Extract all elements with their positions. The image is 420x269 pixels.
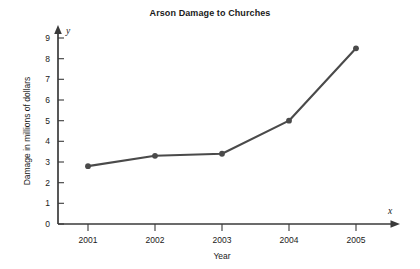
data-point-markers <box>85 45 359 169</box>
y-tick-label-3: 3 <box>45 157 50 167</box>
y-axis-title: Damage in millions of dollars <box>22 77 32 186</box>
y-axis: y <box>54 25 71 224</box>
data-point-2005 <box>353 45 359 51</box>
y-tick-label-0: 0 <box>45 219 50 229</box>
data-point-2004 <box>286 118 292 124</box>
y-axis-arrowhead <box>54 25 62 34</box>
x-tick-label-2004: 2004 <box>280 235 299 245</box>
y-tick-label-9: 9 <box>45 33 50 43</box>
x-tick-label-2001: 2001 <box>79 235 98 245</box>
y-axis-tick-labels: 0 1 2 3 4 5 6 7 8 9 <box>45 33 50 229</box>
x-axis: x <box>58 206 400 228</box>
y-tick-label-5: 5 <box>45 116 50 126</box>
y-tick-label-6: 6 <box>45 95 50 105</box>
x-tick-label-2005: 2005 <box>347 235 366 245</box>
data-point-2002 <box>152 153 158 159</box>
x-axis-arrowhead <box>391 220 401 228</box>
y-axis-symbol-label: y <box>65 26 71 36</box>
y-axis-ticks <box>58 38 64 224</box>
x-axis-symbol-label: x <box>387 206 393 216</box>
data-point-2003 <box>219 151 225 157</box>
data-series-line <box>88 48 356 166</box>
data-point-2001 <box>85 163 91 169</box>
x-axis-title: Year <box>213 251 230 261</box>
y-tick-label-7: 7 <box>45 74 50 84</box>
y-tick-label-1: 1 <box>45 198 50 208</box>
y-tick-label-8: 8 <box>45 54 50 64</box>
x-tick-label-2002: 2002 <box>146 235 165 245</box>
chart-page: Arson Damage to Churches y x <box>0 0 420 269</box>
y-tick-label-4: 4 <box>45 136 50 146</box>
x-tick-label-2003: 2003 <box>213 235 232 245</box>
line-chart-plot: y x 0 1 2 3 4 5 6 <box>0 0 420 269</box>
x-axis-ticks <box>88 224 356 231</box>
x-axis-tick-labels: 2001 2002 2003 2004 2005 <box>79 235 366 245</box>
y-tick-label-2: 2 <box>45 178 50 188</box>
